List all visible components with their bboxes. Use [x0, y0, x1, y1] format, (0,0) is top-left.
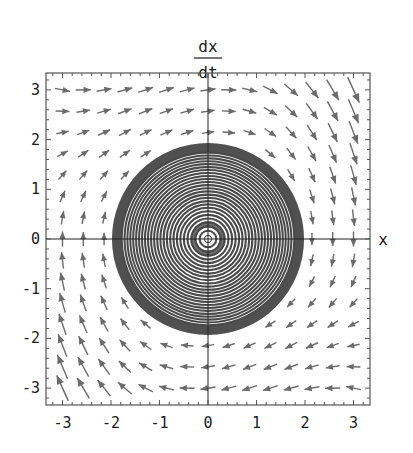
- vector-arrow: [58, 334, 67, 357]
- vector-arrow: [265, 321, 275, 328]
- vector-arrow: [306, 103, 317, 119]
- x-tick-label: -3: [53, 414, 71, 432]
- vector-arrow: [141, 150, 151, 157]
- vector-arrow: [306, 82, 319, 98]
- vector-arrow: [59, 171, 67, 180]
- vector-arrow: [77, 130, 89, 136]
- vector-arrow: [326, 364, 340, 370]
- vector-arrow: [348, 77, 360, 102]
- vector-arrow: [100, 317, 108, 332]
- vector-arrow: [242, 87, 257, 93]
- y-tick-label: -2: [22, 329, 40, 347]
- vector-arrow: [265, 129, 276, 137]
- vector-arrow: [78, 150, 88, 157]
- vector-arrow: [77, 378, 89, 399]
- vector-arrow: [284, 385, 299, 391]
- x-tick-label: 3: [349, 414, 358, 432]
- phase-portrait-chart: dx dt x -3-2-10123 -3-2-10123: [0, 0, 413, 453]
- vector-arrow: [140, 342, 151, 350]
- vector-arrow: [80, 295, 86, 312]
- y-tick-label: 1: [31, 180, 40, 198]
- vector-arrow: [119, 361, 131, 373]
- vector-arrow: [119, 129, 131, 135]
- x-tick-label: -1: [150, 414, 168, 432]
- vector-arrow: [221, 87, 236, 93]
- vector-arrow: [160, 130, 172, 136]
- vector-arrow: [180, 364, 194, 370]
- vector-arrow: [140, 130, 152, 136]
- vector-arrow: [222, 364, 236, 370]
- y-tick-label: 0: [31, 230, 40, 248]
- vector-arrow: [160, 343, 172, 349]
- vector-arrow: [286, 127, 297, 139]
- vector-arrow: [330, 276, 336, 287]
- vector-arrow: [351, 276, 356, 287]
- vector-arrow: [121, 297, 128, 308]
- vector-arrow: [288, 169, 295, 180]
- vector-arrow: [80, 211, 86, 224]
- vector-arrow: [117, 87, 132, 93]
- vector-arrow: [139, 108, 152, 114]
- vector-arrow: [100, 171, 108, 180]
- x-tick-label: 1: [252, 414, 261, 432]
- vector-arrow: [101, 296, 107, 310]
- y-tick-label: -3: [22, 379, 40, 397]
- vector-arrow: [350, 298, 358, 307]
- vector-arrow: [264, 364, 277, 370]
- vector-arrow: [79, 336, 88, 355]
- vector-arrow: [223, 343, 235, 349]
- vector-arrow: [120, 340, 131, 352]
- x-tick-labels: -3-2-10123: [53, 414, 358, 432]
- vector-arrow: [264, 343, 276, 349]
- vector-arrow: [180, 87, 195, 93]
- vector-arrow: [264, 107, 277, 115]
- vector-arrow: [350, 143, 358, 164]
- vector-arrow: [58, 314, 66, 335]
- vector-arrow: [347, 342, 359, 348]
- vector-arrow: [328, 123, 337, 142]
- vector-arrow: [99, 150, 109, 157]
- vector-arrow: [285, 342, 297, 348]
- vector-arrow: [59, 211, 65, 224]
- y-tick-label: 3: [31, 81, 40, 99]
- vector-arrow: [76, 108, 90, 114]
- vector-arrow: [181, 343, 193, 349]
- vector-arrow: [348, 321, 358, 327]
- vector-arrow: [304, 385, 319, 391]
- vector-arrow: [121, 171, 129, 179]
- vector-arrow: [57, 151, 67, 157]
- vector-arrow: [327, 80, 339, 101]
- vector-arrow: [325, 385, 340, 391]
- vector-arrow: [351, 187, 357, 205]
- vector-arrow: [160, 364, 174, 370]
- vector-arrow: [159, 87, 174, 93]
- vector-arrow: [60, 191, 65, 202]
- vector-arrow: [286, 321, 296, 328]
- vector-arrow: [329, 145, 337, 163]
- vector-arrow: [56, 108, 70, 114]
- x-tick-label: -2: [102, 414, 120, 432]
- vector-arrow: [118, 382, 132, 394]
- vector-arrow: [59, 252, 65, 269]
- vector-arrow: [79, 171, 87, 180]
- vector-arrow: [265, 150, 275, 158]
- vector-arrow: [80, 274, 86, 290]
- vector-arrow: [98, 380, 111, 396]
- vector-arrow: [243, 130, 255, 136]
- vector-arrow: [327, 101, 338, 121]
- vector-arrow: [284, 364, 297, 370]
- vector-arrow: [139, 363, 152, 371]
- vector-arrow: [120, 318, 129, 329]
- x-tick-label: 0: [203, 414, 212, 432]
- vector-arrow: [101, 212, 107, 224]
- vector-arrow: [346, 385, 361, 391]
- vector-arrow: [327, 343, 339, 349]
- x-axis-title: x: [378, 230, 388, 249]
- vector-arrow: [351, 254, 357, 267]
- vector-arrow: [56, 130, 68, 136]
- vector-arrow: [101, 191, 107, 201]
- vector-arrow: [263, 385, 278, 391]
- vector-arrow: [284, 84, 298, 96]
- vector-arrow: [244, 343, 256, 349]
- vector-arrow: [351, 165, 358, 185]
